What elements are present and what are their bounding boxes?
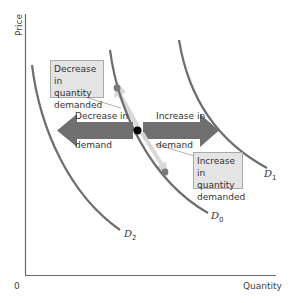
- demand-shift-diagram: [0, 0, 293, 303]
- y-axis-label: Price: [14, 10, 24, 40]
- increase-demand-label-line1: Increase in: [156, 111, 205, 122]
- callout-line2: quantity: [54, 87, 100, 99]
- increase-quantity-demanded-callout: Increase in quantity demanded: [193, 152, 243, 189]
- callout-line2: quantity: [197, 179, 239, 191]
- curve-label-d0: D0: [211, 210, 224, 224]
- x-axis-label: Quantity: [243, 281, 282, 291]
- callout-line3: demanded: [54, 99, 100, 111]
- callout-line3: demanded: [197, 191, 239, 203]
- increase-demand-label-line2: demand: [156, 140, 193, 151]
- callout-line1: Increase in: [197, 155, 239, 179]
- origin-label: 0: [14, 281, 20, 291]
- original-point: [134, 127, 142, 135]
- callout-line1: Decrease in: [54, 63, 100, 87]
- upper-point: [114, 85, 121, 92]
- decrease-quantity-demanded-callout: Decrease in quantity demanded: [50, 60, 104, 98]
- decrease-demand-label-line1: Decrease in: [75, 111, 128, 122]
- curve-label-d1: D1: [264, 168, 277, 182]
- lower-point: [162, 169, 169, 176]
- curve-label-d2: D2: [124, 228, 137, 242]
- decrease-demand-label-line2: demand: [75, 140, 112, 151]
